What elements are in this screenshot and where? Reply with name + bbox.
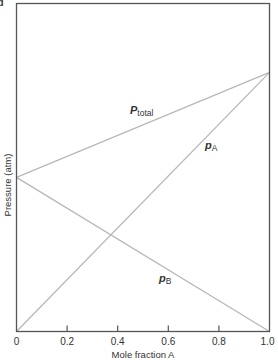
x-tick-label: 0.8 <box>212 336 226 347</box>
label-p-total: Ptotal <box>130 104 153 118</box>
x-tick-label: 1.0 <box>261 336 275 347</box>
label-p-a: pA <box>205 139 217 153</box>
x-tick-label: 0 <box>14 336 20 347</box>
x-tick-label: 0.6 <box>161 336 175 347</box>
x-axis-ticks <box>67 326 219 332</box>
x-tick-label: 0.4 <box>111 336 125 347</box>
label-p-b: pB <box>159 272 171 286</box>
y-axis-label: Pressure (atm) <box>2 154 13 217</box>
plot-area <box>0 0 278 360</box>
x-tick-label: 0.2 <box>60 336 74 347</box>
x-axis-label: Mole fraction A <box>112 349 175 360</box>
plot-frame <box>17 4 270 332</box>
series-line-p-b <box>17 177 270 331</box>
series-line-p-total <box>17 72 270 177</box>
